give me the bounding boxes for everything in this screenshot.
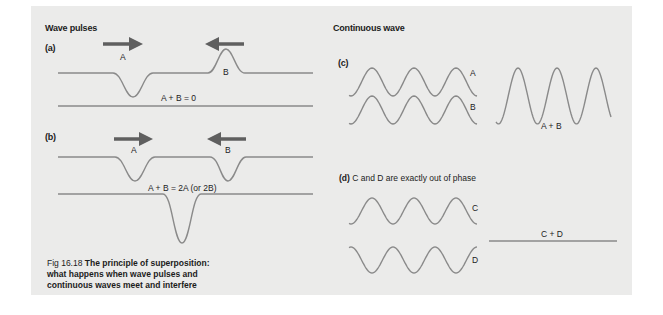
pulse-label-a: A xyxy=(120,52,126,62)
wave-c xyxy=(349,198,477,224)
wave-d xyxy=(349,247,477,273)
caption-line2: what happens when wave pulses and xyxy=(47,269,198,279)
sum-pulse-b xyxy=(58,194,313,243)
label-d: (d) C and D are exactly out of phase xyxy=(339,173,476,183)
label-a: (a) xyxy=(45,43,55,53)
wave-b xyxy=(349,96,477,124)
wave-sum-label-ab: A + B xyxy=(541,121,562,131)
wave-sum-label-cd: C + D xyxy=(541,229,563,239)
heading-continuous-wave: Continuous wave xyxy=(333,23,405,33)
caption-line1: The principle of superposition: xyxy=(85,258,210,268)
caption-line3: continuous waves meet and interfere xyxy=(47,280,197,290)
figure-caption: Fig 16.18 The principle of superposition… xyxy=(47,258,267,291)
pulse-label-a2: A xyxy=(131,145,137,155)
caption-number: Fig 16.18 xyxy=(47,258,82,268)
label-b: (b) xyxy=(45,132,56,142)
result-label-a: A + B = 0 xyxy=(161,93,196,103)
wave-label-b: B xyxy=(470,102,476,112)
wave-label-a: A xyxy=(470,68,476,78)
wave-label-c: C xyxy=(472,203,478,213)
label-c: (c) xyxy=(338,58,348,68)
pulses-b xyxy=(58,157,313,181)
wave-label-d: D xyxy=(472,255,478,265)
label-d-bold: (d) xyxy=(339,173,350,183)
pulse-label-b2: B xyxy=(225,145,231,155)
result-label-b: A + B = 2A (or 2B) xyxy=(148,183,217,193)
pulse-a-trough xyxy=(58,49,313,97)
wave-a xyxy=(349,68,477,96)
heading-wave-pulses: Wave pulses xyxy=(45,23,97,33)
label-d-text: C and D are exactly out of phase xyxy=(352,173,476,183)
wave-sum-ab xyxy=(496,68,611,124)
pulse-label-b: B xyxy=(223,67,229,77)
